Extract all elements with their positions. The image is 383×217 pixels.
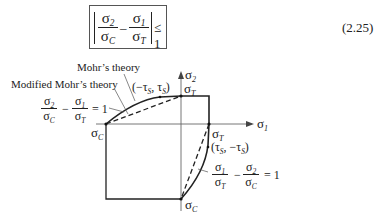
- mohr-failure-diagram: [0, 0, 383, 217]
- eq-upper-op: −: [62, 103, 69, 115]
- sigma1-arrowhead-icon: [246, 121, 254, 127]
- sigma1-axis-label: σ1: [257, 117, 268, 130]
- point-sigmaC-left: [104, 122, 107, 125]
- label-modified-mohr-theory: Modified Mohr’s theory: [11, 79, 118, 90]
- boundary-left-bottom: [106, 124, 181, 199]
- point-tauS-neg-tauS: [207, 146, 210, 149]
- label-tauS-neg-tauS: (τS, −τS): [211, 141, 249, 153]
- point-sigmaC-bottom: [179, 197, 182, 200]
- eq-lower-rhs: = 1: [264, 169, 280, 181]
- label-sigmaC-left: σC: [91, 126, 103, 139]
- eq-upper-frac1: σ2 σC: [41, 95, 57, 122]
- label-sigmaC-bottom: σC: [185, 198, 197, 211]
- point-sigmaT-right: [207, 122, 210, 125]
- eq-lower-op: −: [234, 169, 241, 181]
- label-sigmaT-top: σT: [184, 82, 196, 95]
- sigma2-arrowhead-icon: [178, 71, 184, 79]
- eq-upper-frac2: σ1 σT: [72, 95, 88, 122]
- eq-lower-frac1: σ1 σT: [212, 161, 228, 188]
- point-sigmaT-top: [179, 94, 182, 97]
- label-neg-tauS-tauS: (−τS, τS): [132, 81, 170, 93]
- label-sigmaT-right: σT: [212, 127, 224, 140]
- sigma2-axis-label: σ2: [185, 68, 196, 81]
- boundary-top-right: [181, 96, 209, 124]
- eq-upper-rhs: = 1: [92, 103, 108, 115]
- point-neg-tauS-tauS: [159, 96, 162, 99]
- label-mohr-theory: Mohr’s theory: [77, 62, 140, 73]
- leader-eq-upper: [109, 108, 124, 112]
- eq-lower-frac2: σ2 σC: [243, 161, 259, 188]
